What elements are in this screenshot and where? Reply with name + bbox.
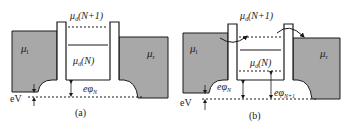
coulomb-blockade-diagram: μl μr μd(N+1) μd(N) eφN eV (a) μl μr μd(… xyxy=(0,0,349,126)
mu-d-n-label: μd(N) xyxy=(249,57,272,69)
panel-b: μl μr μd(N+1) μd(N) eφN eφN+1 eV (b) xyxy=(180,10,340,122)
mu-d-n-label: μd(N) xyxy=(72,55,95,67)
mu-d-n-plus-1-label: μd(N+1) xyxy=(239,10,274,22)
right-lead-region xyxy=(293,38,340,99)
left-tunnel-barrier xyxy=(228,24,237,80)
right-lead-region xyxy=(119,37,168,98)
panel-b-caption: (b) xyxy=(249,110,261,122)
e-phi-n-label: eφN xyxy=(217,81,232,93)
right-tunnel-barrier xyxy=(110,22,119,80)
right-tunnel-barrier xyxy=(284,24,293,80)
e-phi-n-label: eφN xyxy=(83,83,98,95)
panel-a: μl μr μd(N+1) μd(N) eφN eV (a) xyxy=(10,10,168,119)
left-lead-region xyxy=(12,31,57,92)
e-phi-n-plus-1-label: eφN+1 xyxy=(274,87,295,99)
panel-a-caption: (a) xyxy=(75,107,86,119)
bias-label: eV xyxy=(180,97,192,108)
left-tunnel-barrier xyxy=(57,22,66,80)
mu-d-n-plus-1-label: μd(N+1) xyxy=(69,10,104,22)
bias-label: eV xyxy=(10,93,22,104)
